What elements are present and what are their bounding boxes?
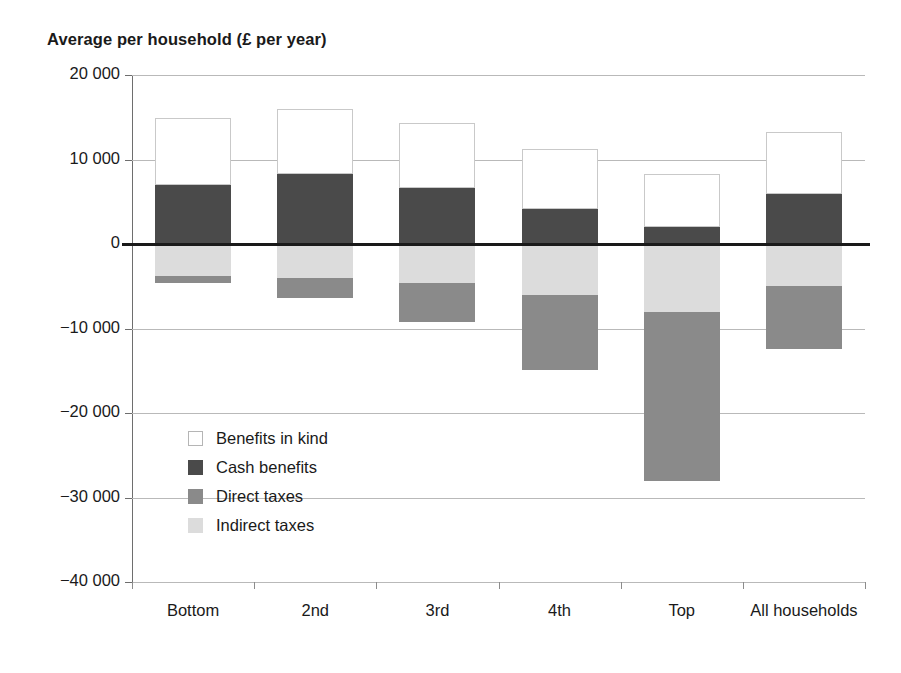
y-tick <box>125 582 132 583</box>
y-tick <box>125 329 132 330</box>
bar-segment-cash-benefits <box>155 185 231 244</box>
bar-segment-benefits-in-kind <box>399 123 475 188</box>
y-tick-label: −30 000 <box>10 487 120 506</box>
x-tick <box>376 582 377 589</box>
x-tick <box>743 582 744 589</box>
y-tick <box>125 498 132 499</box>
y-tick <box>125 75 132 76</box>
legend-item: Direct taxes <box>188 482 328 511</box>
bar-segment-direct-taxes <box>399 283 475 322</box>
bar-segment-direct-taxes <box>644 312 720 481</box>
bar-segment-benefits-in-kind <box>277 109 353 174</box>
x-tick-label: Top <box>621 600 743 621</box>
bar-group <box>644 75 720 582</box>
y-tick-label: 0 <box>10 233 120 252</box>
bar-segment-indirect-taxes <box>766 244 842 286</box>
bar-segment-direct-taxes <box>522 295 598 370</box>
x-axis-labels: Bottom2nd3rd4thTopAll households <box>132 600 865 670</box>
bar-segment-benefits-in-kind <box>522 149 598 208</box>
y-tick-label: −20 000 <box>10 402 120 421</box>
bar-group <box>399 75 475 582</box>
legend-label: Cash benefits <box>216 458 317 477</box>
legend-item: Cash benefits <box>188 453 328 482</box>
legend-swatch-kind <box>188 431 203 446</box>
x-tick <box>132 582 133 589</box>
bar-segment-indirect-taxes <box>277 244 353 278</box>
bar-segment-indirect-taxes <box>399 244 475 283</box>
bar-segment-benefits-in-kind <box>766 132 842 194</box>
bar-segment-cash-benefits <box>644 227 720 244</box>
x-tick-label: Bottom <box>132 600 254 621</box>
x-tick-label: 2nd <box>254 600 376 621</box>
x-tick <box>865 582 866 589</box>
y-tick-label: −10 000 <box>10 318 120 337</box>
legend-item: Benefits in kind <box>188 424 328 453</box>
chart-figure: Average per household (£ per year) 20 00… <box>0 0 901 673</box>
legend-label: Direct taxes <box>216 487 303 506</box>
x-tick <box>621 582 622 589</box>
bar-segment-cash-benefits <box>399 188 475 244</box>
bar-segment-benefits-in-kind <box>155 118 231 185</box>
bar-segment-cash-benefits <box>277 174 353 244</box>
legend-label: Indirect taxes <box>216 516 314 535</box>
x-tick <box>499 582 500 589</box>
bar-group <box>766 75 842 582</box>
chart-legend: Benefits in kindCash benefitsDirect taxe… <box>188 424 328 540</box>
y-tick-label: 20 000 <box>10 64 120 83</box>
legend-swatch-direct <box>188 489 203 504</box>
y-tick-label: −40 000 <box>10 571 120 590</box>
x-tick-label: 3rd <box>376 600 498 621</box>
bar-segment-direct-taxes <box>155 276 231 283</box>
bar-segment-cash-benefits <box>766 194 842 244</box>
bar-segment-cash-benefits <box>522 209 598 244</box>
x-tick-label: All households <box>743 600 865 621</box>
bar-segment-direct-taxes <box>277 278 353 298</box>
legend-swatch-cash <box>188 460 203 475</box>
bar-segment-indirect-taxes <box>155 244 231 276</box>
legend-label: Benefits in kind <box>216 429 328 448</box>
zero-baseline <box>122 243 870 246</box>
chart-title: Average per household (£ per year) <box>47 30 327 49</box>
y-tick <box>125 160 132 161</box>
y-tick <box>125 413 132 414</box>
bar-group <box>522 75 598 582</box>
bar-segment-indirect-taxes <box>522 244 598 295</box>
x-tick-label: 4th <box>499 600 621 621</box>
bar-segment-benefits-in-kind <box>644 174 720 227</box>
x-tick <box>254 582 255 589</box>
y-tick-label: 10 000 <box>10 149 120 168</box>
legend-item: Indirect taxes <box>188 511 328 540</box>
bar-segment-indirect-taxes <box>644 244 720 312</box>
bar-segment-direct-taxes <box>766 286 842 349</box>
legend-swatch-indirect <box>188 518 203 533</box>
